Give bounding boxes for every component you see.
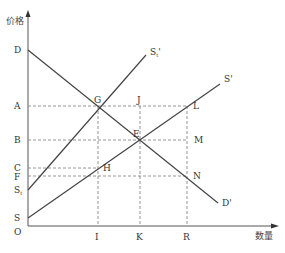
point-G: G <box>94 95 101 105</box>
supply-demand-diagram: 价格 数量 D A B C F St S O I K R G J L E M H… <box>0 0 285 253</box>
supply-tax-curve <box>28 55 146 190</box>
point-M: M <box>194 135 203 145</box>
y-axis-arrow-icon <box>26 10 31 17</box>
point-N: N <box>193 171 201 181</box>
tick-B: B <box>14 135 21 145</box>
tick-F: F <box>14 172 20 182</box>
x-axis-arrow-icon <box>271 224 279 229</box>
supply-tax-curve-label: St' <box>150 47 161 58</box>
tick-S: S <box>14 213 20 223</box>
point-L: L <box>193 101 199 111</box>
y-axis-label: 价格 <box>6 15 24 26</box>
point-H: H <box>103 163 111 173</box>
point-J: J <box>136 95 141 105</box>
tick-A: A <box>13 101 21 111</box>
tick-D: D <box>14 45 21 55</box>
tick-R: R <box>183 232 190 242</box>
x-axis-label: 数量 <box>255 230 273 241</box>
supply-curve-label: S' <box>224 74 233 84</box>
origin-label: O <box>14 227 21 237</box>
supply-curve <box>28 84 220 218</box>
tick-St: St <box>14 185 22 196</box>
point-E: E <box>133 129 140 139</box>
tick-K: K <box>136 232 143 242</box>
demand-curve <box>28 50 218 203</box>
tick-I: I <box>95 232 99 242</box>
demand-curve-label: D' <box>222 198 232 208</box>
